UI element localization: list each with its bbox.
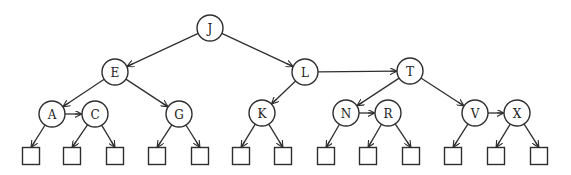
leaf-square [64, 148, 81, 165]
edge-K-leaf-7-arrow [269, 124, 283, 147]
leaf-square [275, 148, 292, 165]
tree-node-N: N [333, 100, 359, 126]
tree-node-R: R [375, 100, 401, 126]
leaf-square [318, 148, 335, 165]
leaf-square [23, 148, 40, 165]
leaf-square [233, 148, 250, 165]
leaf-square [192, 148, 209, 165]
node-label: C [90, 108, 99, 122]
tree-node-E: E [102, 59, 128, 85]
edge-T-V-arrow [421, 78, 464, 106]
edge-L-T-sibling-arrow [318, 71, 397, 72]
node-label: K [258, 107, 268, 121]
leaf-square [445, 148, 462, 165]
edge-A-leaf-1-arrow [31, 125, 45, 147]
tree-node-L: L [292, 59, 318, 85]
leaf-nodes [23, 148, 548, 165]
node-label: X [513, 107, 522, 121]
edge-E-G-arrow [126, 79, 168, 106]
edge-X-leaf-12-arrow [496, 124, 510, 147]
edges [31, 33, 538, 147]
leaf-square [107, 148, 124, 165]
leaf-square [149, 148, 166, 165]
edge-K-leaf-6-arrow [241, 124, 255, 147]
node-label: A [47, 108, 57, 122]
leaf-square [403, 148, 420, 165]
node-label: G [174, 108, 184, 122]
node-label: V [470, 107, 480, 121]
tree-node-K: K [249, 100, 275, 126]
tree-node-J: J [197, 15, 223, 41]
tree-nodes: JELTACGKNRVX [39, 15, 530, 127]
tree-node-G: G [166, 101, 192, 127]
edge-C-leaf-3-arrow [102, 125, 115, 147]
edge-G-leaf-5-arrow [186, 125, 200, 147]
edge-J-E-arrow [127, 33, 198, 66]
tree-node-V: V [462, 100, 488, 126]
tree-node-X: X [504, 100, 530, 126]
edge-L-K-arrow [272, 81, 296, 104]
node-label: J [206, 22, 213, 36]
edge-R-leaf-9-arrow [368, 124, 381, 147]
edge-N-leaf-8-arrow [326, 124, 339, 147]
node-label: L [301, 66, 309, 80]
leaf-square [360, 148, 377, 165]
node-label: T [406, 65, 414, 79]
tree-diagram: JELTACGKNRVX [0, 0, 571, 175]
edge-X-leaf-13-arrow [524, 124, 539, 147]
edge-V-leaf-11-arrow [453, 124, 468, 147]
tree-node-T: T [397, 58, 423, 84]
edge-G-leaf-4-arrow [157, 125, 172, 147]
node-label: N [341, 107, 352, 121]
tree-node-C: C [82, 101, 108, 127]
node-label: R [383, 107, 393, 121]
node-label: E [111, 66, 120, 80]
leaf-square [488, 148, 505, 165]
edge-R-leaf-10-arrow [395, 124, 411, 147]
tree-node-A: A [39, 101, 65, 127]
leaf-square [531, 148, 548, 165]
edge-J-L-arrow [222, 33, 293, 66]
edge-C-leaf-2-arrow [72, 125, 87, 147]
